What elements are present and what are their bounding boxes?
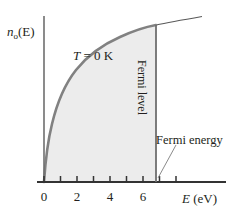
fermi-level-annotation: Fermi level	[136, 60, 148, 115]
plot-canvas	[0, 0, 236, 217]
unoccupied-states-curve	[156, 17, 202, 26]
y-axis-argument: (E)	[18, 24, 35, 39]
fermi-energy-leader-line	[158, 145, 176, 178]
temperature-annotation: T = 0 K	[73, 49, 113, 62]
x-tick-label-2: 2	[67, 190, 87, 203]
x-tick-label-6: 6	[133, 190, 153, 203]
x-axis-symbol: E	[182, 191, 190, 206]
fermi-energy-annotation: Fermi energy	[156, 134, 223, 147]
x-axis-label: E (eV)	[182, 192, 217, 205]
x-tick-label-4: 4	[100, 190, 120, 203]
x-tick-label-0: 0	[34, 190, 54, 203]
y-axis-label: no(E)	[7, 25, 35, 41]
temperature-value: = 0 K	[80, 48, 113, 63]
x-axis-unit: (eV)	[193, 191, 217, 206]
fermi-distribution-figure: no(E) E (eV) T = 0 K Fermi level Fermi e…	[0, 0, 236, 217]
